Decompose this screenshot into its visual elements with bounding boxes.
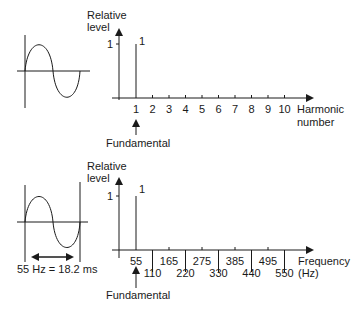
- y-axis-label-line2: level: [87, 172, 110, 184]
- spike-label: 1: [139, 183, 145, 195]
- svg-text:7: 7: [232, 103, 238, 115]
- harmonic-diagram: 1 1 Relative level 1 2 3 4 5 6 7 8 9 10: [0, 0, 360, 318]
- svg-text:385: 385: [226, 255, 244, 267]
- svg-text:6: 6: [215, 103, 221, 115]
- svg-text:110: 110: [144, 267, 162, 279]
- svg-text:550: 550: [275, 267, 293, 279]
- x-axis-label-line2: number: [297, 116, 335, 128]
- spike-label: 1: [139, 35, 145, 47]
- fundamental-label: Fundamental: [106, 137, 170, 149]
- y-axis-label-line1: Relative: [87, 9, 127, 21]
- svg-text:1: 1: [133, 103, 139, 115]
- svg-text:495: 495: [259, 255, 277, 267]
- y-tick-label: 1: [107, 38, 113, 50]
- svg-text:5: 5: [199, 103, 205, 115]
- y-axis-label-line2: level: [87, 21, 110, 33]
- x-tick-labels: 1 2 3 4 5 6 7 8 9 10: [133, 103, 291, 115]
- svg-text:9: 9: [265, 103, 271, 115]
- x-tick-labels-lower: 110 220 330 440 550: [144, 267, 294, 279]
- svg-text:3: 3: [166, 103, 172, 115]
- x-tick-labels-upper: 55 165 275 385 495: [130, 255, 277, 267]
- bottom-spectrum-chart: 1 1 Relative level 55 165 275 385 495 11…: [87, 160, 350, 301]
- y-axis-label-line1: Relative: [87, 160, 127, 172]
- top-sine-wave: [17, 35, 90, 108]
- svg-text:330: 330: [209, 267, 227, 279]
- x-axis-label-line1: Frequency: [298, 255, 350, 267]
- x-axis-label-line2: (Hz): [298, 267, 319, 279]
- svg-text:8: 8: [248, 103, 254, 115]
- svg-text:220: 220: [176, 267, 194, 279]
- svg-text:55: 55: [130, 255, 142, 267]
- fundamental-label: Fundamental: [106, 289, 170, 301]
- y-tick-label: 1: [107, 190, 113, 202]
- top-spectrum-chart: 1 1 Relative level 1 2 3 4 5 6 7 8 9 10: [87, 9, 345, 149]
- svg-text:10: 10: [278, 103, 290, 115]
- svg-text:4: 4: [182, 103, 188, 115]
- bottom-sine-wave: [17, 182, 88, 262]
- svg-text:275: 275: [193, 255, 211, 267]
- svg-text:165: 165: [160, 255, 178, 267]
- x-axis-label-line1: Harmonic: [297, 103, 345, 115]
- svg-text:2: 2: [149, 103, 155, 115]
- period-label: 55 Hz = 18.2 ms: [17, 263, 98, 275]
- svg-text:440: 440: [242, 267, 260, 279]
